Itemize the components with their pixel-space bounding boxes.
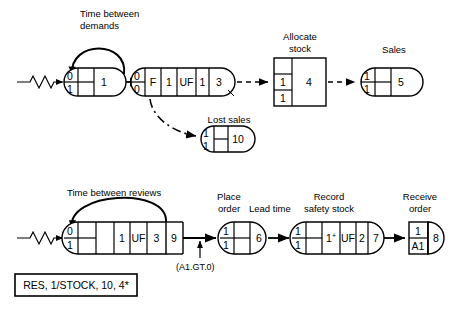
- demand-queue-bottom-left: 0: [134, 83, 140, 95]
- allocate-stock-left-cell-1: 1: [280, 76, 286, 88]
- label-lead-time: Lead time: [249, 203, 291, 214]
- resource-block-text: RES, 1/STOCK, 10, 4*: [23, 279, 128, 291]
- review-source-node[interactable]: 0 1 1 UF 3 9: [62, 222, 183, 254]
- record-safety-stock-cell-4: 7: [373, 232, 379, 244]
- label-receive-order-line1: Receive: [403, 191, 437, 202]
- place-order-cell-1: 6: [256, 232, 262, 244]
- label-allocate-stock-line1: Allocate: [283, 31, 317, 42]
- demand-queue-cell-1: 1: [166, 76, 172, 88]
- demand-queue-cell-3: 1: [200, 76, 206, 88]
- sales-node[interactable]: 1 1 5: [361, 68, 423, 96]
- lost-sales-top-left: 1: [203, 127, 209, 139]
- label-record-safety-stock: Record safety stock: [304, 191, 354, 214]
- place-order-top-left: 1: [223, 225, 229, 237]
- label-time-between-reviews-text: Time between reviews: [67, 187, 161, 198]
- sales-bottom-left: 1: [364, 83, 370, 95]
- receive-order-cell-0: 8: [433, 232, 439, 244]
- sales-cell-1: 5: [398, 76, 404, 88]
- source-squiggle-bottom: [17, 232, 63, 244]
- label-sales-text: Sales: [382, 44, 406, 55]
- label-record-safety-stock-line2: safety stock: [304, 203, 354, 214]
- label-time-between-demands: Time between demands: [80, 8, 139, 31]
- record-safety-stock-cell-2: UF: [341, 232, 355, 244]
- review-source-cell-1: 1: [119, 232, 125, 244]
- label-receive-order: Receive order: [403, 191, 437, 214]
- receive-order-top-left: 1: [415, 225, 421, 237]
- record-safety-stock-cell-3: 2: [359, 232, 365, 244]
- label-time-between-demands-line1: Time between: [80, 8, 139, 19]
- demand-source-cell-1: 1: [101, 76, 107, 88]
- label-condition-text: (A1.GT.0): [176, 262, 215, 272]
- receive-order-bottom-left: A1: [412, 240, 425, 252]
- label-lead-time-text: Lead time: [249, 203, 291, 214]
- label-record-safety-stock-line1: Record: [314, 191, 345, 202]
- sales-top-left: 1: [364, 70, 370, 82]
- demand-queue-top-left: 0: [134, 70, 140, 82]
- review-source-cell-3: 3: [154, 232, 160, 244]
- label-lost-sales: Lost sales: [208, 114, 251, 125]
- label-lost-sales-text: Lost sales: [208, 114, 251, 125]
- demand-queue-cell-4: 3: [216, 76, 222, 88]
- diagram-canvas: Time between demands 0 1 1 0 0 F 1: [0, 0, 451, 309]
- demand-queue-cell-2: UF: [180, 76, 194, 88]
- label-condition-a1gt0: (A1.GT.0): [176, 262, 215, 272]
- edge-queue-to-lost-sales: [150, 99, 196, 136]
- lost-sales-node[interactable]: 1 1 10: [201, 126, 255, 152]
- label-receive-order-line2: order: [409, 203, 431, 214]
- label-allocate-stock: Allocate stock: [283, 31, 317, 54]
- receive-order-node[interactable]: 1 A1 8: [409, 222, 444, 254]
- allocate-stock-left-cell-2: 1: [280, 92, 286, 104]
- review-source-cell-4: 9: [171, 232, 177, 244]
- demand-source-top-left: 0: [67, 70, 73, 82]
- record-safety-stock-top-left: 1: [295, 225, 301, 237]
- demand-source-bottom-left: 1: [67, 83, 73, 95]
- place-order-node[interactable]: 1 1 6: [218, 222, 266, 254]
- network-diagram-svg: Time between demands 0 1 1 0 0 F 1: [0, 0, 451, 309]
- label-place-order-line1: Place: [217, 191, 241, 202]
- source-squiggle-top: [17, 76, 63, 88]
- review-source-cell-2: UF: [132, 232, 146, 244]
- label-time-between-reviews: Time between reviews: [67, 187, 161, 198]
- record-safety-stock-bottom-left: 1: [295, 239, 301, 251]
- label-place-order-line2: order: [218, 203, 240, 214]
- label-place-order: Place order: [217, 191, 241, 214]
- demand-queue-node[interactable]: 0 0 F 1 UF 1 3: [131, 68, 235, 96]
- lost-sales-cell-1: 10: [232, 133, 244, 145]
- record-safety-stock-node[interactable]: 1 1 1+ UF 2 7: [290, 222, 384, 254]
- allocate-stock-node[interactable]: 1 1 4: [274, 58, 326, 106]
- place-order-bottom-left: 1: [223, 239, 229, 251]
- edge-review-to-place-order: [183, 238, 216, 258]
- demand-queue-cell-0: F: [150, 76, 156, 88]
- review-source-top-left: 0: [67, 225, 73, 237]
- label-allocate-stock-line2: stock: [289, 43, 311, 54]
- resource-block[interactable]: RES, 1/STOCK, 10, 4*: [15, 274, 137, 296]
- allocate-stock-right-cell: 4: [306, 76, 312, 88]
- demand-source-node[interactable]: 0 1 1: [64, 68, 126, 96]
- lost-sales-bottom-left: 1: [203, 140, 209, 152]
- label-sales: Sales: [382, 44, 406, 55]
- label-time-between-demands-line2: demands: [80, 20, 119, 31]
- review-source-bottom-left: 1: [67, 239, 73, 251]
